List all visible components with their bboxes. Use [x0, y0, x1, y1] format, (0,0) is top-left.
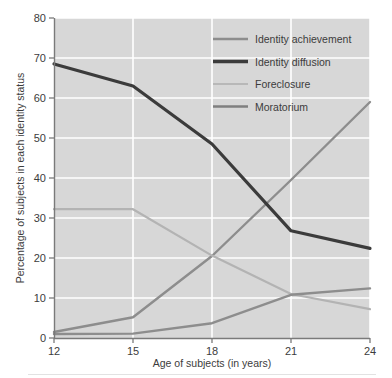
y-axis-ticks	[49, 18, 54, 338]
chart-figure: 01020304050607080 1215182124 Age of subj…	[0, 0, 392, 378]
y-tick-label-80: 80	[34, 12, 46, 24]
y-tick-label-60: 60	[34, 92, 46, 104]
y-tick-label-20: 20	[34, 252, 46, 264]
legend-label-identity-diffusion: Identity diffusion	[255, 56, 331, 68]
y-tick-label-50: 50	[34, 132, 46, 144]
y-tick-label-30: 30	[34, 212, 46, 224]
x-tick-label-21: 21	[285, 345, 297, 357]
bottom-divider	[28, 374, 376, 375]
legend-label-foreclosure: Foreclosure	[255, 78, 311, 90]
y-axis-tick-labels: 01020304050607080	[34, 12, 46, 344]
legend-label-moratorium: Moratorium	[255, 101, 308, 113]
y-tick-label-10: 10	[34, 292, 46, 304]
x-tick-label-15: 15	[127, 345, 139, 357]
x-axis-title: Age of subjects (in years)	[153, 357, 271, 369]
y-tick-label-40: 40	[34, 172, 46, 184]
legend-label-identity-achievement: Identity achievement	[255, 33, 351, 45]
x-tick-label-24: 24	[364, 345, 376, 357]
line-chart: 01020304050607080 1215182124 Age of subj…	[0, 0, 392, 378]
y-tick-label-70: 70	[34, 52, 46, 64]
y-tick-label-0: 0	[40, 332, 46, 344]
x-tick-label-12: 12	[48, 345, 60, 357]
x-axis-tick-labels: 1215182124	[48, 345, 376, 357]
y-axis-title: Percentage of subjects in each identity …	[14, 73, 26, 284]
x-tick-label-18: 18	[206, 345, 218, 357]
